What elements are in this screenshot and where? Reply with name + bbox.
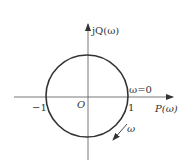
nyquist-diagram: jQ(ω) P(ω) O −1 1 ω=0 ω [0,0,193,168]
origin-label: O [77,99,85,110]
unit-circle [46,55,128,137]
omega-zero-label: ω=0 [129,84,152,95]
tick-label-neg-one: −1 [32,102,47,113]
tick-label-pos-one: 1 [128,102,134,113]
y-axis-label: jQ(ω) [91,25,119,36]
x-axis-label: P(ω) [154,103,178,114]
omega-direction-label: ω [127,123,135,134]
